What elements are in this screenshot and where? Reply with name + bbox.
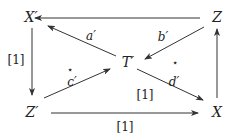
- arrow-z-to-tprime: [145, 27, 204, 59]
- label-shift-left: [1]: [8, 54, 25, 66]
- label-c-prime: c′: [67, 76, 76, 88]
- label-a-prime: a′: [86, 30, 96, 42]
- node-z-prime: Z′: [26, 105, 39, 119]
- label-b-prime: b′: [158, 31, 168, 43]
- node-t-prime: T′: [122, 55, 135, 69]
- node-x: X: [212, 105, 222, 119]
- star-right-icon: ⋆: [172, 58, 178, 68]
- label-shift-center: [1]: [137, 89, 154, 101]
- arrow-zprime-to-tprime: [44, 69, 110, 98]
- node-x-prime: X′: [24, 10, 37, 24]
- star-left-icon: ⋆: [67, 65, 73, 75]
- arrow-tprime-to-xprime: [48, 26, 116, 56]
- node-z: Z: [212, 10, 222, 24]
- label-shift-bottom: [1]: [117, 121, 134, 133]
- label-d-prime: d′: [169, 76, 179, 88]
